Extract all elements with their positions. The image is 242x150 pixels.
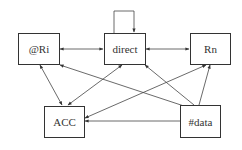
edge-data-ri xyxy=(60,65,184,106)
node-acc: ACC xyxy=(44,106,85,138)
node-data-label: #data xyxy=(189,116,213,128)
node-rn: Rn xyxy=(190,33,231,65)
node-direct-label: direct xyxy=(112,43,137,55)
node-ri: @Ri xyxy=(18,33,60,65)
edge-ri-acc xyxy=(40,65,62,105)
edge-direct-self-loop xyxy=(114,11,134,33)
node-ri-label: @Ri xyxy=(29,43,50,55)
node-rn-label: Rn xyxy=(204,43,217,55)
edge-direct-acc xyxy=(68,65,122,105)
node-direct: direct xyxy=(104,33,146,65)
edge-data-direct xyxy=(145,65,194,105)
node-data: #data xyxy=(180,105,221,138)
edge-data-rn xyxy=(199,65,210,105)
node-acc-label: ACC xyxy=(53,116,76,128)
